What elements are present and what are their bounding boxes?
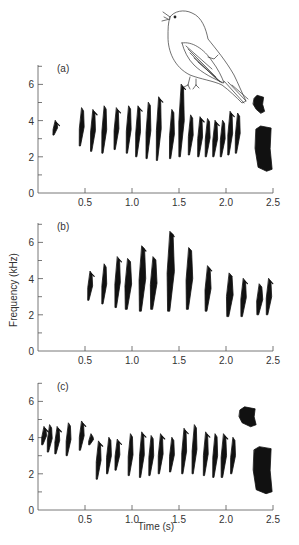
terminal-buzz: [253, 447, 272, 494]
x-tick-label: 1.5: [172, 197, 186, 208]
y-tick-label: 6: [28, 237, 34, 248]
syllable: [146, 103, 151, 159]
x-tick-label: 0.5: [78, 355, 92, 366]
panel-label: (a): [57, 63, 69, 74]
syllable: [169, 438, 174, 472]
syllable: [126, 106, 131, 153]
syllable: [203, 432, 208, 475]
syllable: [235, 113, 240, 153]
x-tick-label: 2.5: [266, 197, 280, 208]
y-tick-label: 6: [28, 396, 34, 407]
syllable: [221, 434, 226, 477]
syllable: [79, 108, 84, 146]
syllable: [226, 273, 233, 316]
syllable: [205, 119, 210, 157]
syllable: [114, 108, 119, 150]
syllable: [125, 259, 132, 310]
syllable: [213, 121, 218, 157]
x-tick-label: 2.5: [266, 355, 280, 366]
x-tick-label: 1.5: [172, 514, 186, 525]
syllable: [167, 232, 174, 312]
y-tick-label: 4: [28, 433, 34, 444]
y-tick-label: 0: [28, 188, 34, 199]
terminal-buzz: [253, 95, 264, 113]
syllable: [139, 246, 146, 311]
x-tick-label: 1.0: [125, 197, 139, 208]
y-tick-label: 6: [28, 79, 34, 90]
terminal-buzz: [255, 126, 272, 171]
panel-label: (c): [57, 381, 69, 392]
y-tick-label: 0: [28, 346, 34, 357]
syllable: [186, 248, 193, 310]
y-tick-label: 0: [28, 505, 34, 516]
syllable: [169, 110, 174, 159]
y-axis-title: Frequency (kHz): [8, 253, 19, 327]
x-tick-label: 0.5: [78, 514, 92, 525]
syllable: [213, 434, 218, 477]
syllable: [139, 432, 144, 477]
syllable: [188, 115, 193, 155]
x-tick-label: 2.0: [219, 355, 233, 366]
spectrogram-panel-c: 02460.51.01.52.02.5(c): [28, 381, 280, 525]
syllable: [136, 106, 141, 157]
syllable: [91, 110, 96, 152]
syllable: [156, 97, 161, 160]
syllable: [257, 284, 263, 315]
syllable: [115, 257, 120, 308]
singing-bird-illustration: [162, 11, 248, 103]
syllable: [241, 279, 246, 317]
syllable: [115, 439, 120, 470]
axes: [38, 383, 273, 510]
syllable: [102, 106, 107, 153]
spectrogram-panel-a: 02460.51.01.52.02.5(a): [28, 63, 280, 208]
x-tick-label: 2.5: [266, 514, 280, 525]
x-tick-label: 1.5: [172, 355, 186, 366]
syllable: [102, 264, 107, 304]
x-tick-label: 2.0: [219, 197, 233, 208]
syllable: [158, 434, 163, 474]
syllable: [96, 441, 101, 479]
y-tick-label: 2: [28, 469, 34, 480]
syllable: [128, 434, 133, 476]
syllable: [47, 425, 52, 452]
syllable: [228, 112, 233, 155]
syllable: [79, 421, 84, 450]
syllable: [220, 121, 225, 157]
syllable: [179, 84, 184, 156]
spectrogram-panels: 02460.51.01.52.02.5(a)02460.51.01.52.02.…: [28, 63, 280, 525]
syllable: [192, 425, 197, 474]
syllable: [266, 279, 271, 315]
syllable: [55, 427, 60, 454]
panel-label: (b): [57, 221, 69, 232]
y-tick-label: 4: [28, 274, 34, 285]
syllable: [198, 117, 203, 157]
y-tick-label: 2: [28, 310, 34, 321]
syllable: [66, 423, 71, 456]
y-tick-label: 2: [28, 152, 34, 163]
x-axis-title: Time (s): [138, 521, 174, 532]
syllable: [182, 429, 187, 474]
y-tick-label: 4: [28, 116, 34, 127]
x-tick-label: 2.0: [219, 514, 233, 525]
syllable: [88, 271, 93, 300]
spectrogram-panel-b: 02460.51.01.52.02.5(b): [28, 221, 280, 366]
syllable: [89, 434, 94, 445]
terminal-buzz: [239, 407, 256, 427]
syllable: [150, 257, 157, 309]
syllable: [149, 436, 154, 476]
birdsong-spectrogram-figure: 02460.51.01.52.02.5(a)02460.51.01.52.02.…: [0, 0, 299, 545]
syllable: [107, 438, 112, 474]
syllable: [231, 438, 236, 474]
x-tick-label: 1.0: [125, 355, 139, 366]
x-tick-label: 0.5: [78, 197, 92, 208]
syllable: [205, 266, 211, 311]
